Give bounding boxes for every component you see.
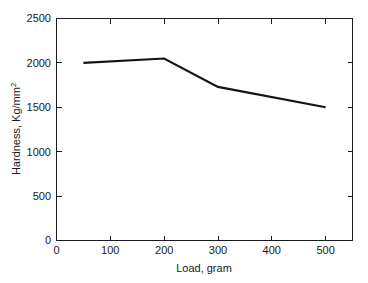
x-tick-label: 200 xyxy=(155,244,173,256)
x-tick-labels: 0 100 200 300 400 500 xyxy=(53,244,334,256)
y-tick-label: 1000 xyxy=(27,146,51,158)
y-tick-label: 500 xyxy=(33,190,51,202)
x-tick-label: 100 xyxy=(101,244,119,256)
x-axis-title: Load, gram xyxy=(176,262,232,274)
y-tick-label: 2500 xyxy=(27,12,51,24)
svg-text:Hardness, Kg/mm2: Hardness, Kg/mm2 xyxy=(9,83,22,175)
y-axis-title-superscript: 2 xyxy=(9,83,18,87)
line-chart: 0 500 1000 1500 2000 2500 0 100 200 300 … xyxy=(0,0,368,283)
y-tick-labels: 0 500 1000 1500 2000 2500 xyxy=(27,12,51,246)
y-tick-label: 0 xyxy=(45,234,51,246)
chart-figure: 0 500 1000 1500 2000 2500 0 100 200 300 … xyxy=(0,0,368,283)
plot-area-background xyxy=(56,18,352,240)
x-tick-label: 300 xyxy=(209,244,227,256)
x-tick-label: 400 xyxy=(263,244,281,256)
y-axis-title-base: Hardness, Kg/mm xyxy=(10,87,22,175)
y-axis-title: Hardness, Kg/mm2 xyxy=(9,83,22,175)
y-tick-label: 1500 xyxy=(27,101,51,113)
x-tick-label: 500 xyxy=(316,244,334,256)
y-tick-label: 2000 xyxy=(27,57,51,69)
x-tick-label: 0 xyxy=(53,244,59,256)
